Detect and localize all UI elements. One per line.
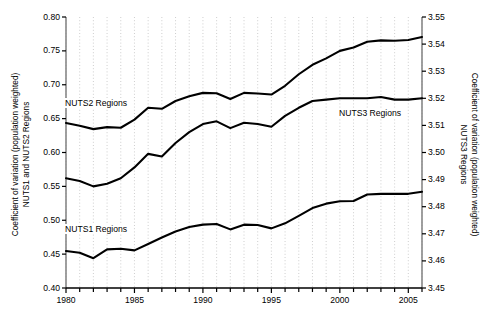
y-tick-label-right: 3.51 bbox=[428, 120, 470, 130]
x-tick-label: 1995 bbox=[251, 295, 291, 305]
y-tick-label-left: 0.50 bbox=[18, 215, 60, 225]
y-tick-label-right: 3.46 bbox=[428, 255, 470, 265]
y-tick-label-right: 3.49 bbox=[428, 174, 470, 184]
x-tick-label: 2005 bbox=[388, 295, 428, 305]
y-tick-label-right: 3.48 bbox=[428, 201, 470, 211]
series-annotation: NUTS2 Regions bbox=[64, 98, 128, 108]
y-tick-label-right: 3.54 bbox=[428, 39, 470, 49]
series-annotation: NUTS1 Regions bbox=[64, 224, 128, 234]
series-annotation: NUTS3 Regions bbox=[338, 108, 402, 118]
y-tick-label-right: 3.47 bbox=[428, 228, 470, 238]
y-tick-label-left: 0.45 bbox=[18, 249, 60, 259]
x-tick-label: 1985 bbox=[114, 295, 154, 305]
y-tick-label-right: 3.55 bbox=[428, 12, 470, 22]
y-tick-label-left: 0.60 bbox=[18, 147, 60, 157]
y-tick-label-left: 0.65 bbox=[18, 113, 60, 123]
y-tick-label-left: 0.75 bbox=[18, 45, 60, 55]
x-tick-label: 1990 bbox=[183, 295, 223, 305]
y-tick-label-left: 0.55 bbox=[18, 181, 60, 191]
y-tick-label-right: 3.53 bbox=[428, 66, 470, 76]
y-tick-label-right: 3.45 bbox=[428, 283, 470, 293]
y-tick-label-left: 0.70 bbox=[18, 79, 60, 89]
x-tick-label: 2000 bbox=[320, 295, 360, 305]
y-tick-label-left: 0.40 bbox=[18, 283, 60, 293]
y-tick-label-left: 0.80 bbox=[18, 12, 60, 22]
x-tick-label: 1980 bbox=[46, 295, 86, 305]
y-tick-label-right: 3.50 bbox=[428, 147, 470, 157]
y-tick-label-right: 3.52 bbox=[428, 93, 470, 103]
